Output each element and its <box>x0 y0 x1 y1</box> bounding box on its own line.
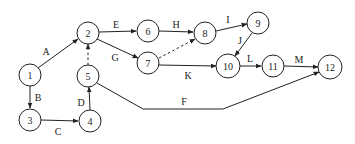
node-8: 8 <box>194 22 216 44</box>
edge-label-M: M <box>295 54 304 65</box>
edge-label-J: J <box>238 35 242 46</box>
edge-label-F: F <box>181 96 187 107</box>
node-2: 2 <box>77 22 99 44</box>
diagram-svg: A B C D E G H I J K L M F 1 2 3 4 5 6 7 … <box>0 0 355 144</box>
node-1: 1 <box>19 64 41 86</box>
edge-label-C: C <box>55 126 62 137</box>
node-5: 5 <box>77 65 99 87</box>
node-12: 12 <box>318 55 342 79</box>
edge-label-L: L <box>247 53 253 64</box>
edge-H <box>159 31 193 32</box>
svg-text:6: 6 <box>146 26 151 37</box>
edge-F <box>97 72 319 109</box>
svg-text:10: 10 <box>223 61 233 72</box>
node-6: 6 <box>137 20 159 42</box>
edge-I <box>216 24 247 31</box>
edge-K <box>159 65 216 66</box>
edge-E <box>99 31 136 32</box>
svg-text:9: 9 <box>256 18 261 29</box>
edge-label-K: K <box>184 70 192 81</box>
svg-text:11: 11 <box>268 61 278 72</box>
node-4: 4 <box>79 110 101 132</box>
svg-text:4: 4 <box>88 116 93 127</box>
edge-M <box>284 66 318 67</box>
node-11: 11 <box>262 55 284 77</box>
svg-text:7: 7 <box>146 58 151 69</box>
edge-label-B: B <box>35 92 42 103</box>
svg-text:3: 3 <box>28 115 33 126</box>
node-3: 3 <box>19 109 41 131</box>
node-9: 9 <box>247 12 269 34</box>
network-diagram: A B C D E G H I J K L M F 1 2 3 4 5 6 7 … <box>0 0 355 144</box>
svg-text:1: 1 <box>28 70 33 81</box>
edge-D <box>89 87 90 110</box>
node-7: 7 <box>137 52 159 74</box>
node-10: 10 <box>216 54 240 78</box>
svg-text:8: 8 <box>203 28 208 39</box>
edge-label-I: I <box>226 14 229 25</box>
edge-label-G: G <box>111 52 118 63</box>
edge-C <box>41 120 78 121</box>
edge-label-A: A <box>42 46 50 57</box>
edge-label-H: H <box>172 19 179 30</box>
edge-label-D: D <box>77 97 84 108</box>
svg-text:12: 12 <box>325 62 335 73</box>
edge-dummy-7-8 <box>159 39 195 58</box>
svg-text:5: 5 <box>86 71 91 82</box>
svg-text:2: 2 <box>86 28 91 39</box>
edge-label-E: E <box>113 19 119 30</box>
